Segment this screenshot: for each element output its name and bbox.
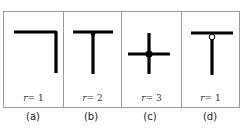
r-label-a: r= 1 [4,93,63,103]
panel-b: r= 2 [63,12,121,107]
figure-frame: r= 1 r= 2 r= 3 r= 1 [3,11,240,108]
r-label-d: r= 1 [182,93,239,103]
panel-d: r= 1 [181,12,239,107]
caption-d: (d) [181,111,239,122]
caption-a: (a) [4,111,62,122]
caption-b: (b) [62,111,120,122]
panel-a: r= 1 [4,12,63,107]
r-label-b: r= 2 [64,93,121,103]
r-label-c: r= 3 [122,93,181,103]
caption-c: (c) [121,111,179,122]
panel-c: r= 3 [121,12,181,107]
